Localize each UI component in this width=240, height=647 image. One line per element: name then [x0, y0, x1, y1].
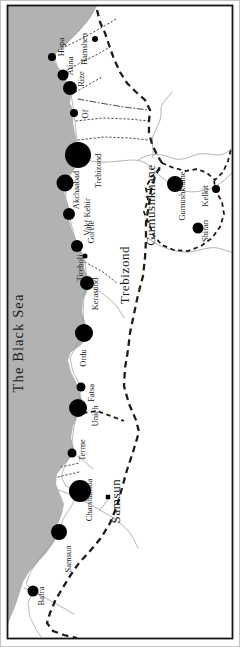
town-label-akchaabad: Akchaabad — [71, 170, 81, 209]
town-label-samsun: Samsun — [63, 545, 73, 573]
town-marker-terme — [68, 449, 77, 458]
town-label-shiran: Shiran — [200, 219, 210, 242]
town-label-fatsa: Fatsa — [86, 384, 96, 402]
town-label-of: Of — [80, 109, 90, 118]
region-label-samsun: Samsun — [108, 479, 123, 524]
town-marker-unieh — [69, 399, 87, 417]
town-label-unieh: Unieh — [90, 405, 100, 427]
town-label-charshamba: Charshamba — [84, 479, 94, 522]
town-label-ordu: Ordu — [78, 349, 88, 367]
town-marker-hamshen — [92, 36, 98, 42]
town-label-hamshen: Hamshen — [79, 32, 89, 65]
sea-label: The Black Sea — [10, 294, 26, 393]
trebizond-region-map: HopaAtinaRizeHamshenOfTrebizondAkchaabad… — [0, 0, 240, 647]
town-label-trebizond: Trebizond — [93, 153, 103, 188]
town-marker-ordu — [75, 324, 93, 342]
town-marker-samsun — [51, 524, 67, 540]
town-label-gorele: Gorele — [86, 220, 96, 243]
town-label-atina: Atina — [65, 56, 75, 75]
town-marker-fatsa — [77, 383, 86, 392]
region-label-gumushkhane: Gumushkhane — [143, 164, 158, 246]
town-label-rize: Rize — [76, 71, 86, 87]
town-label-bafra: Bafra — [36, 586, 46, 605]
town-label-hopa: Hopa — [56, 38, 66, 57]
town-marker-rize — [63, 81, 77, 95]
town-label-kelkit: Kelkit — [200, 185, 210, 207]
town-marker-trebizond — [65, 142, 91, 168]
town-marker-kelkit — [212, 185, 220, 193]
region-label-trebizond: Trebizond — [117, 246, 132, 304]
town-label-kerasund: Kerasund — [90, 277, 100, 310]
town-marker-hopa — [48, 53, 56, 61]
town-marker-of — [70, 109, 78, 117]
town-label-terme: Terme — [77, 439, 87, 461]
town-marker-gorele — [71, 240, 83, 252]
town-label-tireboli: Tireboli — [75, 254, 85, 282]
town-label-gumushkhane: Gumushkhane — [177, 171, 187, 220]
